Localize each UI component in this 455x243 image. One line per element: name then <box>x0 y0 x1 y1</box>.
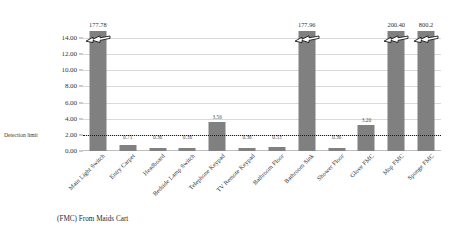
y-axis-tick-label: 14.00 <box>37 34 77 42</box>
bar <box>268 147 285 151</box>
x-axis-tick-label: Main Light Switch <box>67 152 106 191</box>
figure-caption: (FMC) From Maids Cart <box>57 215 128 223</box>
y-axis-tick-label: 6.00 <box>37 99 77 107</box>
bar <box>298 31 315 151</box>
bar-value-label: 200.40 <box>387 21 405 28</box>
chart-figure: 0.002.004.006.008.0010.0012.0014.00 Dete… <box>0 0 455 243</box>
bar <box>119 145 136 151</box>
axis-break-icon <box>85 30 111 39</box>
bar-value-label: 3.20 <box>362 117 371 123</box>
x-axis-tick-label: Entry Carpet <box>108 152 136 180</box>
y-axis-tick-label: 10.00 <box>37 66 77 74</box>
bar <box>239 148 256 151</box>
bar <box>209 122 226 151</box>
bar-value-label: 3.56 <box>213 114 222 120</box>
plot-area: 177.780.710.360.363.560.360.53177.960.36… <box>83 38 441 151</box>
bar <box>388 31 405 151</box>
x-axis-tick-label: Mop FMC <box>381 152 405 176</box>
bar <box>89 31 106 151</box>
bar <box>418 31 435 151</box>
bar <box>358 125 375 151</box>
axis-break-icon <box>294 30 320 39</box>
x-axis-tick-label: Shower Floor <box>315 152 345 182</box>
x-axis-tick-label: Bathroom Sink <box>283 152 315 184</box>
x-axis-labels: Main Light SwitchEntry CarpetHeadboardBe… <box>83 152 441 212</box>
bar-value-label: 800.2 <box>419 21 433 28</box>
detection-limit-line <box>83 135 441 136</box>
bar-value-label: 177.96 <box>298 21 316 28</box>
y-axis-tick-label: 8.00 <box>37 82 77 90</box>
axis-break-icon <box>383 30 409 39</box>
detection-limit-label: Detection limit <box>4 132 66 138</box>
x-axis-tick-label: Glove FMC <box>348 152 375 179</box>
y-axis-tick-label: 0.00 <box>37 147 77 155</box>
x-axis-tick-label: Sponge FMC <box>405 152 434 181</box>
bar-value-label: 177.78 <box>89 21 107 28</box>
x-axis-tick-label: Headboard <box>141 152 166 177</box>
bar <box>328 148 345 151</box>
axis-break-icon <box>413 30 439 39</box>
bar <box>179 148 196 151</box>
x-axis-tick-label: Bathroom Floor <box>251 152 285 186</box>
bar <box>149 148 166 151</box>
y-axis-tick-label: 4.00 <box>37 115 77 123</box>
y-axis-tick-label: 12.00 <box>37 50 77 58</box>
